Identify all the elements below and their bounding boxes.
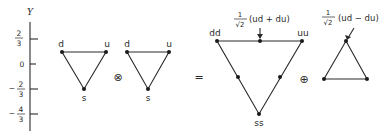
label-s: s (146, 93, 151, 103)
antitriplet: 1 √2 (ud − du) (322, 9, 379, 81)
node-us-anti (365, 77, 369, 81)
direct-sum-symbol: ⊕ (299, 73, 308, 86)
label-s: s (82, 93, 87, 103)
tick-label-num: 2 (19, 80, 24, 89)
triangle (324, 41, 367, 79)
equals-symbol: = (194, 71, 203, 84)
triangle (127, 52, 169, 89)
quark-multiplet-diagram: Y 2 3 0 − 2 3 − 4 3 d u s ⊗ (0, 0, 390, 139)
fraction-den: √2 (236, 21, 245, 29)
node-s (82, 87, 86, 91)
tick-label-den: 3 (17, 39, 22, 48)
tick-label-den: 3 (19, 115, 24, 124)
triangle (217, 41, 302, 114)
sextet: dd uu ss 1 √2 (ud + du) (209, 11, 308, 128)
tick-label-num: 4 (19, 105, 24, 114)
node-ds (236, 75, 240, 79)
node-ud-sym (258, 39, 262, 43)
tensor-product-symbol: ⊗ (113, 71, 122, 84)
triplet-b: d u s (124, 39, 172, 103)
label-dd: dd (209, 28, 220, 38)
node-ss (257, 112, 261, 116)
node-d (60, 50, 64, 54)
fraction-num: 1 (238, 11, 242, 19)
tick-label-num: 2 (17, 29, 22, 38)
node-ds-anti (322, 77, 326, 81)
label-u: u (104, 39, 110, 49)
tick-label-zero: 0 (20, 60, 25, 69)
label-d: d (58, 39, 64, 49)
label-uu: uu (297, 28, 308, 38)
triplet-a: d u s (58, 39, 110, 103)
fraction-num: 1 (326, 9, 330, 17)
label-ss: ss (254, 118, 264, 128)
node-uu (300, 39, 304, 43)
tick-label-sign: − (9, 109, 15, 118)
node-us (278, 75, 282, 79)
annotation-text: (ud − du) (338, 13, 379, 23)
fraction-den: √2 (324, 19, 333, 27)
tick-label-sign: − (9, 84, 15, 93)
node-d (125, 50, 129, 54)
annotation-text: (ud + du) (249, 14, 290, 24)
triangle (62, 52, 106, 89)
y-axis-title: Y (27, 7, 34, 17)
symmetric-annotation: 1 √2 (ud + du) (234, 11, 290, 39)
node-dd (215, 39, 219, 43)
node-s (146, 87, 150, 91)
label-u: u (166, 39, 172, 49)
tick-label-den: 3 (19, 90, 24, 99)
node-u (104, 50, 108, 54)
node-u (167, 50, 171, 54)
arrow-down-icon (257, 34, 263, 39)
antisymmetric-annotation: 1 √2 (ud − du) (322, 9, 379, 40)
label-d: d (124, 39, 130, 49)
y-axis: Y 2 3 0 − 2 3 − 4 3 (9, 7, 38, 131)
